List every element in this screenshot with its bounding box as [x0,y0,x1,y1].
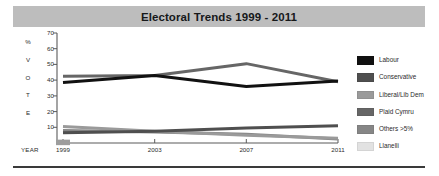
legend-swatch-icon-labour [357,56,374,65]
legend-item-llanelli[interactable]: Llanelli [357,141,437,152]
legend-item-plaid-cymru[interactable]: Plaid Cymru [357,107,437,118]
x-tick-2003: 2003 [148,147,162,153]
chart-legend: Labour Conservative Liberal/Lib Dem Plai… [357,55,437,158]
legend-swatch-icon-others-over-5 [357,125,374,134]
chart-title-banner: Electoral Trends 1999 - 2011 [13,6,425,27]
x-tick-1999: 1999 [56,147,70,153]
x-axis-title: YEAR [21,147,39,153]
legend-swatch-icon-conservative [357,73,374,82]
legend-item-conservative[interactable]: Conservative [357,72,437,83]
legend-item-labour[interactable]: Labour [357,55,437,66]
x-axis-ticks: YEAR 1999 2003 2007 2011 [0,27,355,155]
legend-label-labour: Labour [379,57,399,63]
legend-swatch-icon-llanelli [357,142,374,151]
page-title: Electoral Trends 1999 - 2011 [141,11,297,23]
chart-plot-region: % V O T E 70 60 50 40 30 20 10 [0,27,355,155]
footer-divider [13,166,425,168]
chart-page: Electoral Trends 1999 - 2011 % V O T E 7… [0,0,439,176]
legend-item-liberal-lib-dem[interactable]: Liberal/Lib Dem [357,89,437,100]
x-tick-2011: 2011 [331,147,344,153]
legend-label-llanelli: Llanelli [379,143,399,149]
legend-item-others-over-5[interactable]: Others >5% [357,124,437,135]
x-tick-2007: 2007 [239,147,253,153]
legend-swatch-icon-liberal-lib-dem [357,91,374,100]
legend-swatch-icon-plaid-cymru [357,108,374,117]
legend-label-others-over-5: Others >5% [379,126,413,132]
legend-label-plaid-cymru: Plaid Cymru [379,109,414,115]
legend-label-liberal-lib-dem: Liberal/Lib Dem [379,92,424,98]
legend-label-conservative: Conservative [379,74,416,80]
